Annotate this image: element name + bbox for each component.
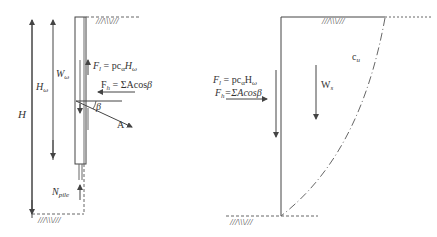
label-f-h: Fh=ΣAcosβ: [214, 87, 262, 100]
label-c-u: cu: [352, 51, 360, 64]
label-w-s: Ws: [321, 79, 333, 92]
label-n-pile: Npile: [51, 186, 69, 199]
label-f-l: Fl = pcαHω: [212, 74, 257, 87]
ground-hatch-top: ///\\\///: [95, 16, 120, 26]
label-w-omega: Wω: [56, 68, 69, 81]
label-h: H: [17, 108, 27, 120]
failure-surface-curve: [281, 18, 385, 216]
label-f-l: Fl = pcαHω: [92, 60, 137, 73]
right-panel: ///\\\/// ///\\\/// Fl = pcαHω Fh=ΣAcosβ…: [212, 16, 432, 227]
label-h-omega: Hω: [35, 81, 48, 94]
ground-hatch-top: ///\\\///: [321, 16, 346, 26]
label-f-h: Fh = ΣAcosβ: [101, 79, 152, 92]
ground-hatch-bottom: ///\\\///: [37, 215, 62, 225]
left-panel: ///\\\/// ///\\\/// H Hω Wω Fl = pcαHω F…: [17, 16, 152, 225]
pile-wall-diagram: ///\\\/// ///\\\/// H Hω Wω Fl = pcαHω F…: [0, 0, 437, 237]
ground-hatch-bottom: ///\\\///: [229, 217, 254, 227]
label-a: A: [117, 119, 125, 130]
label-beta: β: [95, 101, 101, 112]
